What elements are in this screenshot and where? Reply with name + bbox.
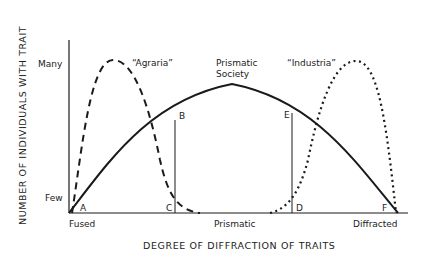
x-tick-prismatic: Prismatic xyxy=(214,219,255,229)
y-tick-many: Many xyxy=(38,59,63,69)
x-tick-diffracted: Diffracted xyxy=(353,219,398,229)
point-b-label: B xyxy=(179,111,185,121)
point-e-label: E xyxy=(284,110,290,120)
point-a-label: A xyxy=(80,203,87,213)
prismatic-society-diagram: “Agraria” Prismatic Society “Industria” … xyxy=(0,0,427,260)
agraria-curve xyxy=(72,60,200,213)
y-axis-title: NUMBER OF INDIVIDUALS WITH TRAIT xyxy=(17,26,28,225)
x-tick-fused: Fused xyxy=(69,219,95,229)
prismatic-society-label-line2: Society xyxy=(216,69,250,79)
point-d-label: D xyxy=(296,203,303,213)
point-c-label: C xyxy=(166,203,172,213)
y-tick-few: Few xyxy=(45,193,63,203)
x-axis-title: DEGREE OF DIFFRACTION OF TRAITS xyxy=(143,240,335,251)
prismatic-society-label-line1: Prismatic xyxy=(216,58,257,68)
point-f-label: F xyxy=(382,203,387,213)
prismatic-society-curve xyxy=(69,84,398,213)
industria-label: “Industria” xyxy=(287,58,336,68)
agraria-label: “Agraria” xyxy=(132,58,173,68)
